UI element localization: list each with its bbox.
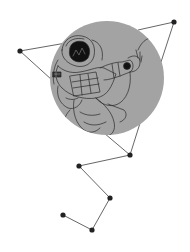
star-node xyxy=(171,19,176,24)
star-node xyxy=(60,212,65,217)
gray-circle-backdrop xyxy=(50,21,164,135)
star-node xyxy=(76,163,81,168)
astronaut-constellation-illustration xyxy=(0,0,190,252)
star-node xyxy=(89,227,94,232)
star-node xyxy=(127,152,132,157)
star-node xyxy=(107,195,112,200)
star-node xyxy=(17,48,22,53)
